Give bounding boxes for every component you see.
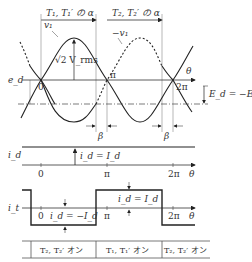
theta-label: θ (186, 66, 192, 76)
tick-2pi: 2π (176, 82, 188, 92)
state-cell-1: T₂, T₂′ オン (40, 246, 83, 255)
beta-marker-2: β (152, 126, 183, 141)
it-panel: i_t i_d = −I_d i_d = I_d 0 π 2π θ (8, 182, 195, 233)
it-tick-pi: π (104, 211, 110, 221)
state-cell-3: T₂, T₂′ オン (164, 246, 207, 255)
alpha-span-t2-label: T₂, T₂′ の α (112, 8, 160, 18)
it-pos-label: i_d = I_d (118, 194, 158, 205)
it-neg-label: i_d = −I_d (50, 211, 98, 222)
diagram-canvas: T₁, T₁′ の α T₂, T₂′ の α e_d θ (0, 0, 252, 262)
thyristor-waveform-diagram: T₁, T₁′ の α T₂, T₂′ の α e_d θ (0, 0, 252, 262)
neg-v1-label: −v₁ (112, 28, 128, 38)
tick-pi: π (110, 70, 116, 80)
beta-label-2: β (163, 131, 169, 141)
id-axis-label: i_d (8, 150, 21, 161)
id-panel: i_d i_d = I_d 0 π 2π θ (8, 147, 195, 179)
id-theta-label: θ (189, 169, 195, 179)
it-tick-2pi: 2π (168, 211, 180, 221)
ed-axis-label: e_d (8, 75, 24, 86)
alpha-span-t2: T₂, T₂′ の α (107, 8, 162, 20)
alpha-span-t1: T₁, T₁′ の α (41, 8, 96, 20)
beta-label-1: β (97, 131, 103, 141)
tick-0: 0 (38, 82, 44, 92)
it-axis-label: i_t (8, 203, 19, 214)
id-value-label: i_d = I_d (80, 151, 120, 162)
it-tick-0: 0 (38, 211, 44, 221)
state-table: T₂, T₂′ オン T₁, T₁′ オン T₂, T₂′ オン (22, 241, 210, 258)
it-theta-label: θ (189, 211, 195, 221)
id-tick-2pi: 2π (168, 169, 180, 179)
neg-v1-dashed-hump (96, 38, 162, 104)
state-cell-2: T₁, T₁′ オン (106, 246, 149, 255)
neg-v1-dashed-left (20, 42, 30, 66)
ed-level-label: E_d = −E_o (208, 89, 252, 100)
id-tick-0: 0 (38, 169, 44, 179)
ed-panel: e_d θ √2 V_rms v₁ −v₁ 0 π 2π E_d = −E_o (8, 20, 252, 141)
id-tick-pi: π (104, 169, 110, 179)
beta-marker-1: β (86, 126, 117, 141)
alpha-span-t1-label: T₁, T₁′ の α (46, 8, 94, 18)
v1-label: v₁ (44, 20, 53, 30)
neg-v1-curve-mid (41, 80, 96, 122)
amplitude-label: √2 V_rms (55, 55, 98, 66)
